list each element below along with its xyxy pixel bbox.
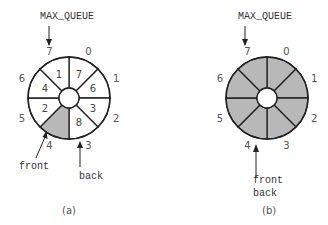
- slot-index-label: 0: [85, 46, 91, 57]
- back-label: back: [79, 171, 103, 182]
- slot-value: 4: [42, 83, 48, 94]
- slot-index-label: 5: [19, 113, 25, 124]
- slot-index-label: 1: [113, 73, 119, 84]
- circular-array-ring: [226, 57, 308, 139]
- diagram-b: MAX_QUEUE 01234567 front back (b): [217, 11, 318, 216]
- caption: (b): [262, 205, 276, 216]
- slot-value: 6: [90, 83, 96, 94]
- slot-index-label: 6: [217, 73, 223, 84]
- slot-index-label: 2: [311, 113, 317, 124]
- circular-queue-figure: MAX_QUEUE 01234567 7638241 front back (a…: [0, 0, 328, 225]
- diagram-a: MAX_QUEUE 01234567 7638241 front back (a…: [19, 11, 120, 216]
- slot-index-label: 3: [85, 140, 91, 151]
- slot-index-label: 7: [244, 46, 250, 57]
- slot-index-label: 4: [46, 140, 52, 151]
- slot-value: 8: [76, 117, 82, 128]
- slot-index-label: 5: [217, 113, 223, 124]
- back-label: back: [253, 188, 277, 199]
- front-label: front: [19, 161, 49, 172]
- max-queue-label: MAX_QUEUE: [238, 11, 292, 22]
- front-label: front: [253, 175, 283, 186]
- slot-index-label: 4: [244, 140, 250, 151]
- slot-index-label: 0: [283, 46, 289, 57]
- inner-circle: [59, 88, 79, 108]
- slot-value: 1: [56, 69, 62, 80]
- arrowhead-icon: [77, 141, 83, 148]
- slot-value: 7: [76, 69, 82, 80]
- caption: (a): [62, 205, 76, 216]
- slot-index-label: 1: [311, 73, 317, 84]
- slot-index-label: 3: [283, 140, 289, 151]
- slot-index-label: 2: [113, 113, 119, 124]
- circular-array-ring: [28, 57, 110, 139]
- slot-index-label: 7: [46, 46, 52, 57]
- inner-circle: [257, 88, 277, 108]
- slot-index-label: 6: [19, 73, 25, 84]
- arrowhead-icon: [253, 144, 259, 152]
- front-arrow-icon: [36, 137, 45, 158]
- slot-value: 2: [42, 103, 48, 114]
- slot-value: 3: [90, 103, 96, 114]
- max-queue-label: MAX_QUEUE: [40, 11, 94, 22]
